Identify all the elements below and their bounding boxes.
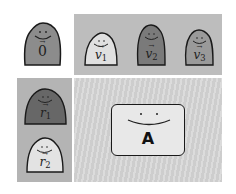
- vector-v1-character: → v1: [84, 32, 118, 66]
- r2-label-sub: 2: [45, 160, 50, 170]
- v1-label-sub: 1: [102, 53, 107, 63]
- vector-v3-character: → v3: [185, 29, 214, 66]
- row-vector-r2-character: → r2: [26, 137, 64, 173]
- r1-label-sub: 1: [46, 111, 51, 121]
- zero-vector-character: → 0: [23, 22, 62, 66]
- matrix-a-character: A: [111, 104, 185, 156]
- vector-v2-character: → v2: [137, 24, 166, 66]
- row-vector-r1-character: → r1: [24, 88, 67, 125]
- matrix-a-label: A: [112, 129, 184, 148]
- v3-label-sub: 3: [200, 53, 205, 63]
- v2-label-sub: 2: [152, 52, 157, 62]
